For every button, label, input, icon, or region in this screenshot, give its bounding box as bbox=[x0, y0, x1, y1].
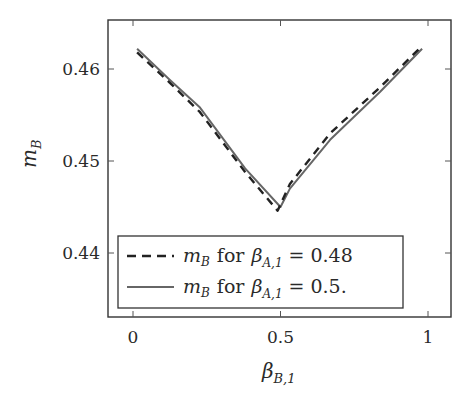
chart: 00.510.440.450.46 mB βB,1 mBforβA,1= 0.4… bbox=[0, 0, 475, 405]
x-axis-label: βB,1 bbox=[261, 359, 296, 386]
series-dashed-line bbox=[137, 46, 422, 211]
x-tick-label: 0.5 bbox=[267, 327, 294, 347]
x-tick-label: 1 bbox=[423, 327, 434, 347]
y-tick-label: 0.45 bbox=[62, 151, 100, 171]
x-tick-label: 0 bbox=[128, 327, 139, 347]
y-tick-label: 0.44 bbox=[62, 243, 100, 263]
y-axis-label: mB bbox=[17, 139, 44, 168]
legend: mBforβA,1= 0.48 mBforβA,1= 0.5. bbox=[118, 236, 403, 308]
series-layer bbox=[137, 46, 422, 211]
y-tick-label: 0.46 bbox=[62, 59, 100, 79]
series-solid-line bbox=[137, 49, 422, 207]
